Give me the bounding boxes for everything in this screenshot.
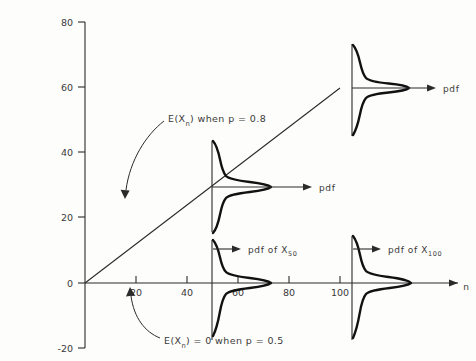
y-tick-label-80: 80 (61, 17, 73, 28)
callout-curve-zero-p05 (131, 296, 160, 338)
pdf-curve-n100-p08 (353, 45, 409, 135)
pdf-pointer-arrow-lower-mid-icon (232, 246, 241, 253)
y-tick-label-40: 40 (61, 147, 73, 158)
callout-curve-trend-p08 (126, 121, 164, 190)
annotation-zero-p05: E(Xn) = 0 when p = 0.5 (164, 335, 284, 350)
callout-zero-p05 (126, 287, 160, 338)
pdf-label-upper-mid: pdf (319, 183, 336, 193)
callout-trend-p08 (121, 121, 164, 199)
random-walk-expectation-chart: 80 60 40 20 0 -20 20 40 60 80 100 n (0, 0, 476, 361)
annotation-trend-p08: E(Xn) when p = 0.8 (168, 113, 266, 128)
x-tick-label-100: 100 (331, 287, 349, 298)
x-axis-arrow-icon (449, 280, 458, 287)
y-tick-labels: 80 60 40 20 0 -20 (57, 17, 73, 354)
annotation-trend-p08-tail: ) when p = 0.8 (190, 113, 266, 124)
pdf-pointer-upper-right (352, 85, 436, 92)
y-tick-label-neg20: -20 (57, 343, 73, 354)
y-tick-group (78, 22, 85, 348)
annotation-trend-p08-main: E(X (168, 113, 186, 124)
pdf-label-upper-right: pdf (443, 84, 460, 94)
y-tick-label-20: 20 (61, 212, 73, 223)
x-axis-name-label: n (463, 282, 469, 292)
pdf-label-lower-right-sub: 100 (428, 250, 442, 258)
y-tick-label-60: 60 (61, 82, 73, 93)
pdf-pointer-arrow-upper-mid-icon (303, 184, 312, 191)
pdf-label-lower-mid: pdf of X50 (248, 245, 297, 258)
y-tick-label-0: 0 (67, 278, 73, 289)
x-tick-label-40: 40 (181, 287, 193, 298)
pdf-label-lower-mid-sub: 50 (288, 250, 297, 258)
pdf-label-lower-right-main: pdf of X (388, 245, 428, 255)
x-tick-label-80: 80 (283, 287, 295, 298)
pdf-pointer-arrow-upper-right-icon (427, 85, 436, 92)
annotation-zero-p05-tail: ) = 0 when p = 0.5 (186, 335, 284, 346)
axis-group (85, 22, 458, 348)
pdf-pointer-arrow-lower-right-icon (372, 246, 381, 253)
figure-container: 80 60 40 20 0 -20 20 40 60 80 100 n (0, 0, 476, 361)
pdf-label-lower-right: pdf of X100 (388, 245, 442, 258)
callout-arrow-trend-p08-icon (121, 190, 130, 199)
pdf-label-lower-mid-main: pdf of X (248, 245, 288, 255)
annotation-zero-p05-main: E(X (164, 335, 182, 346)
